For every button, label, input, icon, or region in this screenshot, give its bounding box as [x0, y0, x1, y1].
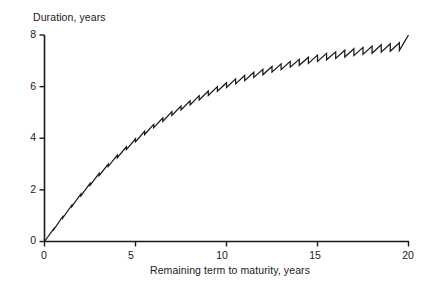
axes — [44, 35, 409, 242]
duration-chart: Duration, years Remaining term to maturi… — [0, 0, 432, 289]
plot-area — [0, 0, 432, 289]
duration-curve — [45, 35, 409, 242]
tick-marks — [40, 35, 409, 247]
